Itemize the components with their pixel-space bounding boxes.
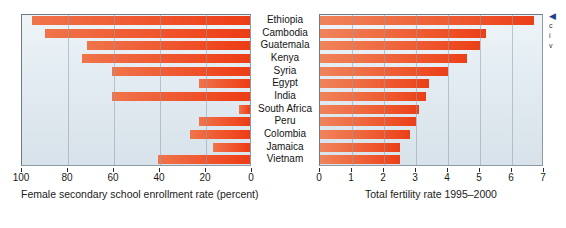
left-chart-row bbox=[22, 78, 250, 90]
right-chart-row bbox=[320, 28, 542, 40]
right-chart-row bbox=[320, 104, 542, 116]
left-x-axis: 100806040200 bbox=[21, 168, 251, 184]
axis-tick-label: 100 bbox=[13, 172, 30, 184]
category-label: Peru bbox=[256, 115, 314, 127]
right-chart-row bbox=[320, 142, 542, 154]
category-label: Cambodia bbox=[256, 27, 314, 39]
right-chart-bar bbox=[320, 29, 486, 38]
left-chart-bar bbox=[190, 130, 250, 139]
left-chart-row bbox=[22, 40, 250, 52]
left-chart-panel: 100806040200 Female secondary school enr… bbox=[0, 0, 262, 228]
annotation-line-3: v bbox=[549, 41, 566, 51]
right-chart-row bbox=[320, 53, 542, 65]
gridline bbox=[512, 15, 513, 165]
category-label: Syria bbox=[256, 65, 314, 77]
left-chart-bar bbox=[32, 16, 251, 25]
left-chart-bar bbox=[45, 29, 250, 38]
gridline bbox=[416, 15, 417, 165]
left-chart-bar bbox=[213, 143, 250, 152]
annotation-arrow-icon: ◀ bbox=[549, 12, 566, 21]
gridline bbox=[352, 15, 353, 165]
right-chart-row bbox=[320, 78, 542, 90]
category-label: Colombia bbox=[256, 128, 314, 140]
left-chart-row bbox=[22, 28, 250, 40]
axis-tick-label: 40 bbox=[153, 172, 164, 184]
left-chart-row bbox=[22, 91, 250, 103]
category-label-column: EthiopiaCambodiaGuatemalaKenyaSyriaEgypt… bbox=[256, 14, 314, 166]
left-chart-row bbox=[22, 53, 250, 65]
left-chart-row bbox=[22, 104, 250, 116]
left-chart-row bbox=[22, 154, 250, 166]
right-chart-row bbox=[320, 91, 542, 103]
axis-tick-label: 5 bbox=[476, 172, 482, 184]
gridline bbox=[448, 15, 449, 165]
right-x-axis: 01234567 bbox=[319, 168, 543, 184]
right-chart-bar bbox=[320, 105, 419, 114]
right-chart-row bbox=[320, 116, 542, 128]
right-chart-row bbox=[320, 40, 542, 52]
right-bar-rows bbox=[320, 15, 542, 165]
axis-tick-label: 60 bbox=[107, 172, 118, 184]
right-chart-bar bbox=[320, 41, 480, 50]
right-chart-bar bbox=[320, 130, 410, 139]
right-chart-bar bbox=[320, 155, 400, 164]
left-chart-row bbox=[22, 142, 250, 154]
axis-tick-label: 6 bbox=[508, 172, 514, 184]
gridline bbox=[68, 15, 69, 165]
category-label: Ethiopia bbox=[256, 14, 314, 26]
left-axis-title: Female secondary school enrollment rate … bbox=[21, 188, 259, 201]
left-chart-bar bbox=[112, 92, 250, 101]
right-chart-row bbox=[320, 15, 542, 27]
right-chart-row bbox=[320, 66, 542, 78]
right-chart-bar bbox=[320, 79, 429, 88]
category-label: Guatemala bbox=[256, 39, 314, 51]
axis-tick-label: 2 bbox=[380, 172, 386, 184]
left-chart-bar bbox=[87, 41, 250, 50]
right-chart-bar bbox=[320, 117, 416, 126]
left-plot-area bbox=[21, 14, 251, 166]
left-chart-bar bbox=[112, 67, 250, 76]
category-label: Kenya bbox=[256, 52, 314, 64]
left-chart-row bbox=[22, 116, 250, 128]
right-chart-row bbox=[320, 129, 542, 141]
left-chart-row bbox=[22, 66, 250, 78]
left-chart-bar bbox=[82, 54, 250, 63]
axis-tick-label: 1 bbox=[348, 172, 354, 184]
right-chart-bar bbox=[320, 143, 400, 152]
side-annotation: ◀ c i v bbox=[549, 12, 566, 51]
right-axis-title: Total fertility rate 1995–2000 bbox=[319, 188, 543, 201]
gridline bbox=[206, 15, 207, 165]
axis-tick-label: 4 bbox=[444, 172, 450, 184]
annotation-line-2: i bbox=[549, 31, 566, 41]
axis-tick-label: 7 bbox=[540, 172, 546, 184]
left-bar-rows bbox=[22, 15, 250, 165]
axis-tick-label: 0 bbox=[316, 172, 322, 184]
gridline bbox=[160, 15, 161, 165]
axis-tick-label: 20 bbox=[199, 172, 210, 184]
axis-tick-label: 3 bbox=[412, 172, 418, 184]
category-label: Vietnam bbox=[256, 153, 314, 165]
left-chart-bar bbox=[239, 105, 251, 114]
double-bar-chart-figure: 100806040200 Female secondary school enr… bbox=[0, 0, 566, 228]
gridline bbox=[114, 15, 115, 165]
category-label: Jamaica bbox=[256, 141, 314, 153]
right-chart-row bbox=[320, 154, 542, 166]
right-chart-bar bbox=[320, 92, 426, 101]
gridline bbox=[384, 15, 385, 165]
right-chart-bar bbox=[320, 54, 467, 63]
left-chart-row bbox=[22, 15, 250, 27]
right-chart-panel: 01234567 Total fertility rate 1995–2000 bbox=[310, 0, 566, 228]
axis-tick-label: 80 bbox=[61, 172, 72, 184]
category-label: Egypt bbox=[256, 77, 314, 89]
gridline bbox=[480, 15, 481, 165]
annotation-line-1: c bbox=[549, 21, 566, 31]
right-plot-area bbox=[319, 14, 543, 166]
left-chart-row bbox=[22, 129, 250, 141]
category-label: India bbox=[256, 90, 314, 102]
left-chart-bar bbox=[158, 155, 250, 164]
axis-tick-label: 0 bbox=[248, 172, 254, 184]
category-label: South Africa bbox=[256, 103, 314, 115]
